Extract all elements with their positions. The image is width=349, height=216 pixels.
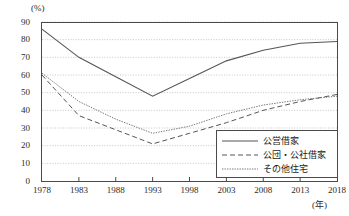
legend-label-2: その他住宅 [263,164,308,174]
legend-item-0: 公営借家 [221,134,333,148]
legend-item-1: 公団・公社借家 [221,148,333,162]
series-lines [42,29,337,144]
legend: 公営借家 公団・公社借家 その他住宅 [216,130,338,178]
legend-label-0: 公営借家 [263,136,299,146]
dotted-line-sample [221,164,259,174]
dashed-line-sample [221,150,259,160]
line-chart: (%) (年) 0102030405060708090 197819831988… [0,0,349,216]
legend-item-2: その他住宅 [221,162,333,176]
legend-label-1: 公団・公社借家 [263,150,326,160]
series-line-2 [42,73,337,133]
plot-area [0,0,349,216]
series-line-0 [42,29,337,96]
solid-line-sample [221,136,259,146]
